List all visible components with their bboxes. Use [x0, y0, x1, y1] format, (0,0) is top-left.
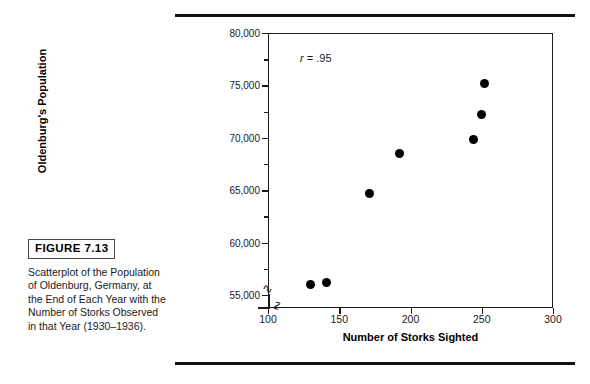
plot-area: [268, 33, 553, 308]
y-axis-title: Oldenburg's Population: [36, 26, 48, 196]
x-tick-label: 100: [243, 313, 293, 325]
y-tick-label: 70,000: [204, 132, 260, 143]
y-tick-minor: [264, 164, 268, 165]
y-tick-label: 65,000: [204, 185, 260, 196]
data-point: [480, 79, 489, 88]
scatterplot-figure: Oldenburg's Population Number of Storks …: [0, 0, 590, 384]
y-tick: [262, 85, 268, 86]
x-axis-title: Number of Storks Sighted: [268, 331, 553, 343]
data-point: [469, 135, 478, 144]
y-tick: [262, 138, 268, 139]
y-axis-break-icon: ∿: [261, 281, 274, 295]
y-tick-label: 55,000: [204, 289, 260, 300]
y-tick-minor: [264, 59, 268, 60]
x-tick-label: 300: [528, 313, 578, 325]
y-tick-minor: [264, 216, 268, 217]
x-tick-label: 250: [457, 313, 507, 325]
y-tick-minor: [264, 112, 268, 113]
y-tick: [262, 243, 268, 244]
y-tick-label: 80,000: [204, 28, 260, 39]
y-tick: [262, 33, 268, 34]
data-point: [322, 278, 331, 287]
correlation-value: = .95: [307, 52, 332, 64]
x-tick-label: 150: [314, 313, 364, 325]
correlation-symbol: r: [300, 52, 304, 64]
x-axis-break-icon: ∿: [270, 299, 285, 312]
data-point: [395, 149, 404, 158]
data-point: [365, 189, 374, 198]
y-tick: [262, 190, 268, 191]
correlation-annotation: r = .95: [300, 52, 332, 64]
y-tick-label: 60,000: [204, 237, 260, 248]
y-tick-minor: [264, 269, 268, 270]
y-axis-labels: 55,00060,00065,00070,00075,00080,000: [198, 0, 260, 384]
x-tick-label: 200: [386, 313, 436, 325]
y-axis-break-stub: [258, 307, 270, 309]
y-tick-label: 75,000: [204, 80, 260, 91]
